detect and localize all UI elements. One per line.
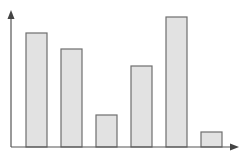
bar-chart — [0, 0, 244, 157]
bars-group — [26, 17, 222, 147]
y-axis-arrow-icon — [8, 10, 15, 19]
bar-1 — [26, 33, 47, 147]
bar-6 — [201, 132, 222, 147]
x-axis-arrow-icon — [230, 144, 239, 151]
bar-4 — [131, 66, 152, 147]
bar-5 — [166, 17, 187, 147]
bar-3 — [96, 115, 117, 147]
bar-2 — [61, 49, 82, 147]
